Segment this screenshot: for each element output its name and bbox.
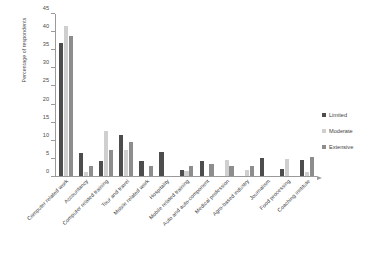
y-axis-tick-label: 30: [43, 59, 49, 65]
legend-label: Extensive: [329, 144, 353, 150]
x-axis-arrow: [317, 176, 322, 180]
y-axis-tick: [51, 31, 55, 32]
legend-swatch-icon: [322, 145, 326, 149]
legend-label: Moderate: [329, 128, 353, 134]
chart-legend: LimitedModerateExtensive: [322, 112, 353, 160]
y-axis-tick-label: 40: [43, 23, 49, 29]
y-axis-tick-label: 25: [43, 77, 49, 83]
y-axis-tick: [51, 85, 55, 86]
y-axis-tick-label: 15: [43, 114, 49, 120]
y-axis-tick: [51, 176, 55, 177]
y-axis-tick: [51, 104, 55, 105]
bar-moderate: [64, 26, 68, 176]
y-axis-title: Percentage of respondents: [21, 0, 27, 110]
y-axis-tick-label: 5: [46, 150, 49, 156]
x-axis-labels: Computer related workAccountancyComputer…: [55, 178, 317, 264]
y-axis-tick: [51, 158, 55, 159]
y-axis-tick: [51, 140, 55, 141]
y-axis-tick: [51, 122, 55, 123]
legend-swatch-icon: [322, 129, 326, 133]
bar-limited: [59, 43, 63, 176]
y-axis-tick-label: 20: [43, 96, 49, 102]
legend-label: Limited: [329, 112, 347, 118]
legend-swatch-icon: [322, 113, 326, 117]
bar-chart: Percentage of respondents 05101520253035…: [0, 0, 378, 267]
y-axis-tick-label: 45: [43, 5, 49, 11]
legend-item-extensive[interactable]: Extensive: [322, 144, 353, 150]
y-axis-tick-label: 35: [43, 41, 49, 47]
bar-extensive: [69, 36, 73, 176]
y-axis-tick-label: 0: [46, 168, 49, 174]
y-axis-tick: [51, 13, 55, 14]
y-axis-tick: [51, 67, 55, 68]
x-axis-label-text: Mobile related work: [112, 178, 150, 216]
y-axis-tick: [51, 49, 55, 50]
bar-group: [56, 14, 76, 176]
legend-item-limited[interactable]: Limited: [322, 112, 353, 118]
bar-moderate: [104, 131, 108, 176]
y-axis-tick-label: 10: [43, 132, 49, 138]
legend-item-moderate[interactable]: Moderate: [322, 128, 353, 134]
x-axis-label-text: Agro-based industry: [212, 178, 251, 217]
